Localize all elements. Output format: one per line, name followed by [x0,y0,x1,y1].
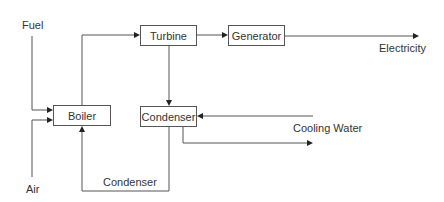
turbine-label: Turbine [150,30,187,42]
generator-arrow-icon [222,32,228,38]
boiler-label: Boiler [68,110,96,122]
generator-label: Generator [232,30,282,42]
fuel-arrow-icon [47,107,53,113]
fuel-label: Fuel [22,19,43,31]
turbine-arrow-icon [134,32,140,38]
condenser-label: Condenser [142,111,196,123]
boiler-to-turbine-line [82,35,135,105]
air-line [32,120,48,177]
air-label: Air [26,183,40,195]
turbine-node: Turbine [141,26,197,46]
electricity-label: Electricity [379,42,427,54]
generator-node: Generator [229,26,285,46]
cooling-water-in-arrow-icon [197,113,203,119]
flow-diagram: Fuel Air Boiler Turbine Generator Electr… [0,0,444,202]
fuel-line [32,36,48,110]
cooling-water-out-arrow-icon [307,140,313,146]
electricity-arrow-icon [413,33,419,39]
cooling-water-out-line [183,126,307,143]
boiler-return-arrow-icon [79,126,85,132]
condenser-node: Condenser [141,107,197,127]
boiler-node: Boiler [54,106,111,126]
condensate-return-label: Condenser [103,176,157,188]
condenser-arrow-icon [166,100,172,106]
air-arrow-icon [47,117,53,123]
cooling-water-label: Cooling Water [293,122,363,134]
